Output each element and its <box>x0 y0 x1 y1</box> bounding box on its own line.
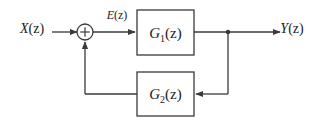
input-signal-base: X <box>19 21 29 36</box>
output-signal-arg: (z) <box>288 21 304 37</box>
forward-gain-arg: (z) <box>165 25 182 42</box>
block-diagram-canvas: X(z) E(z) Y(z) G1(z) G2(z) <box>0 0 320 123</box>
feedback-gain-arg: (z) <box>165 86 182 103</box>
input-signal-arg: (z) <box>29 21 45 37</box>
feedback-gain-base: G <box>149 86 160 102</box>
error-signal-arg: (z) <box>114 8 127 22</box>
output-signal-label: Y(z) <box>280 21 304 37</box>
error-signal-label: E(z) <box>106 8 128 22</box>
input-signal-label: X(z) <box>19 21 44 37</box>
forward-gain-base: G <box>149 25 160 41</box>
block-diagram-svg: X(z) E(z) Y(z) G1(z) G2(z) <box>0 0 320 123</box>
